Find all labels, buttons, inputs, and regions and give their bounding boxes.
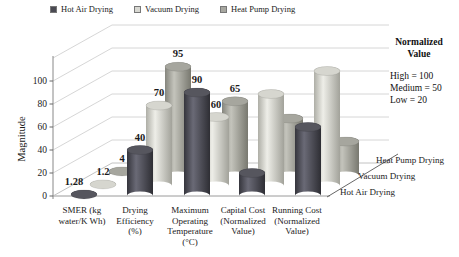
- y-tick-label-80: 80: [38, 99, 48, 109]
- figure: Hot Air Drying Vacuum Drying Heat Pump D…: [0, 0, 459, 257]
- bars: [71, 62, 359, 199]
- data-label-heat-pump-drying-1: 95: [173, 48, 184, 59]
- depth-label-vacuum-drying: Vacuum Drying: [358, 171, 416, 181]
- bar-hot-air-drying-3: [239, 169, 265, 197]
- depth-label-hot-air-drying: Hot Air Drying: [340, 187, 395, 197]
- data-label-hot-air-drying-2: 90: [192, 74, 203, 85]
- note-line-low: Low = 20: [390, 94, 457, 106]
- y-tick-label-100: 100: [33, 76, 48, 86]
- note-title-line-2: Value: [381, 48, 457, 60]
- data-label-heat-pump-drying-2: 65: [230, 83, 241, 94]
- data-label-heat-pump-drying-0: 4: [119, 153, 125, 164]
- note-line-medium: Medium = 50: [390, 82, 457, 94]
- category-label-1: DryingEfficiency(%): [116, 205, 154, 236]
- y-tick-label-0: 0: [42, 191, 47, 201]
- category-label-0: SMER (kgwater/K Wh): [58, 205, 105, 226]
- y-axis: 020406080100Magnitude: [16, 56, 53, 201]
- bar-hot-air-drying-4: [295, 123, 321, 197]
- bar-hot-air-drying-0: [71, 190, 97, 199]
- data-label-vacuum-drying-0: 1.2: [96, 166, 109, 177]
- note-key: High = 100 Medium = 50 Low = 20: [381, 70, 457, 106]
- category-label-3: Capital Cost(NormalizedValue): [220, 205, 266, 236]
- data-label-vacuum-drying-1: 70: [154, 87, 165, 98]
- category-labels: SMER (kgwater/K Wh)DryingEfficiency(%)Ma…: [58, 205, 322, 247]
- y-tick-label-40: 40: [38, 145, 48, 155]
- y-axis-title: Magnitude: [16, 116, 27, 162]
- data-label-hot-air-drying-1: 40: [135, 132, 146, 143]
- category-label-2: MaximumOperatingTemperature(°C): [167, 205, 212, 247]
- bar-hot-air-drying-1: [127, 146, 153, 197]
- note-line-high: High = 100: [390, 70, 457, 82]
- normalized-value-note: Normalized Value High = 100 Medium = 50 …: [381, 36, 457, 106]
- data-label-vacuum-drying-2: 60: [211, 99, 222, 110]
- data-label-hot-air-drying-0: 1.28: [65, 176, 83, 187]
- y-tick-label-20: 20: [38, 168, 48, 178]
- bar-vacuum-drying-0: [90, 180, 116, 189]
- note-title: Normalized Value: [381, 36, 457, 60]
- category-label-4: Running Cost(NormalizedValue): [272, 205, 322, 236]
- note-title-line-1: Normalized: [381, 36, 457, 48]
- depth-label-heat-pump-drying: Heat Pump Drying: [376, 155, 444, 165]
- bar-hot-air-drying-2: [184, 88, 210, 196]
- y-tick-label-60: 60: [38, 122, 48, 132]
